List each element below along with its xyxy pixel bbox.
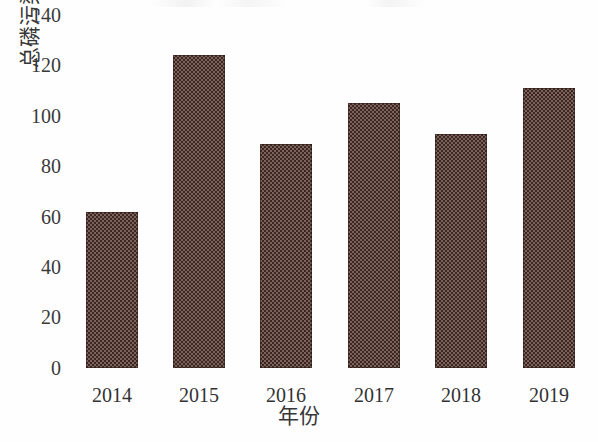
y-tick-100: 100 xyxy=(13,104,61,127)
bar-slot-2019 xyxy=(523,10,575,368)
y-tick-140: 140 xyxy=(13,4,61,27)
bar-chart-figure: 总磷污染物通量（t） 140 120 100 80 60 40 20 0 xyxy=(0,0,598,442)
bar-slot-2015 xyxy=(173,10,225,368)
y-tick-0: 0 xyxy=(13,356,61,379)
y-tick-40: 40 xyxy=(13,256,61,279)
scan-artifact xyxy=(150,0,450,7)
bar-2014[interactable] xyxy=(86,212,138,368)
bar-group xyxy=(68,10,588,368)
bar-2018[interactable] xyxy=(435,134,487,369)
bar-slot-2017 xyxy=(348,10,400,368)
y-tick-120: 120 xyxy=(13,54,61,77)
bar-2015[interactable] xyxy=(173,55,225,368)
bar-2019[interactable] xyxy=(523,88,575,368)
y-tick-20: 20 xyxy=(13,306,61,329)
bar-slot-2018 xyxy=(435,10,487,368)
plot-area: 140 120 100 80 60 40 20 0 xyxy=(68,10,588,370)
bar-2016[interactable] xyxy=(260,144,312,368)
bar-slot-2016 xyxy=(260,10,312,368)
bar-slot-2014 xyxy=(86,10,138,368)
bar-2017[interactable] xyxy=(348,103,400,368)
y-tick-80: 80 xyxy=(13,155,61,178)
y-tick-60: 60 xyxy=(13,205,61,228)
x-axis-title: 年份 xyxy=(0,399,598,429)
